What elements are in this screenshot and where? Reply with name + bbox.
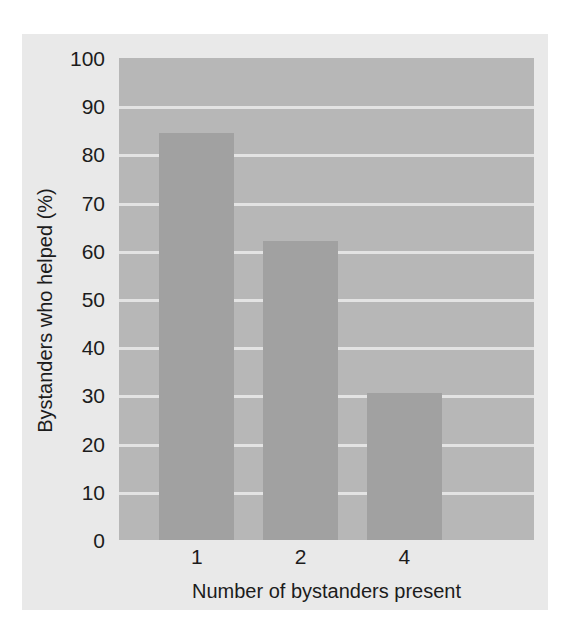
x-tick-label: 2 [295, 546, 307, 567]
x-axis-label: Number of bystanders present [119, 580, 534, 603]
y-tick-label: 40 [82, 337, 105, 358]
bar [263, 241, 338, 540]
bar [367, 393, 442, 540]
y-tick-label: 50 [82, 289, 105, 310]
y-tick-label: 100 [70, 48, 105, 69]
y-tick-label: 30 [82, 385, 105, 406]
y-tick-label: 90 [82, 96, 105, 117]
x-tick-label: 1 [191, 546, 203, 567]
y-tick-label: 20 [82, 433, 105, 454]
y-tick-label: 80 [82, 144, 105, 165]
y-axis-label: Bystanders who helped (%) [34, 151, 57, 471]
y-tick-label: 70 [82, 192, 105, 213]
figure-canvas: 100 90 80 70 60 50 40 30 20 10 0 Bystand… [22, 34, 548, 610]
x-axis-tick-labels: 124 [119, 546, 534, 576]
x-tick-label: 4 [398, 546, 410, 567]
bar [159, 133, 234, 540]
y-tick-label: 0 [93, 530, 105, 551]
bar-series [119, 58, 534, 540]
y-tick-label: 10 [82, 481, 105, 502]
plot-area [119, 58, 534, 540]
y-tick-label: 60 [82, 240, 105, 261]
